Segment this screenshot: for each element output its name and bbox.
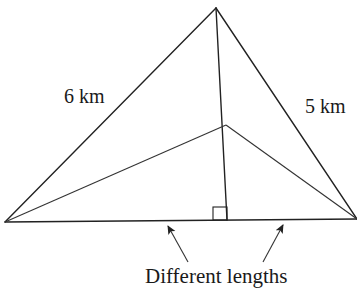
triangle-diagram: 6 km 5 km Different lengths — [0, 0, 357, 292]
base-line — [5, 219, 357, 222]
right-angle-marker — [213, 207, 227, 220]
label-5km: 5 km — [305, 95, 346, 117]
altitude-line — [216, 8, 227, 220]
label-6km: 6 km — [64, 85, 105, 107]
interior-to-left-line — [5, 125, 226, 222]
interior-to-right-line — [226, 125, 357, 219]
arrow-left — [168, 226, 188, 262]
caption-different-lengths: Different lengths — [145, 264, 288, 288]
left-side-6km — [5, 8, 216, 222]
arrow-right — [263, 225, 283, 262]
